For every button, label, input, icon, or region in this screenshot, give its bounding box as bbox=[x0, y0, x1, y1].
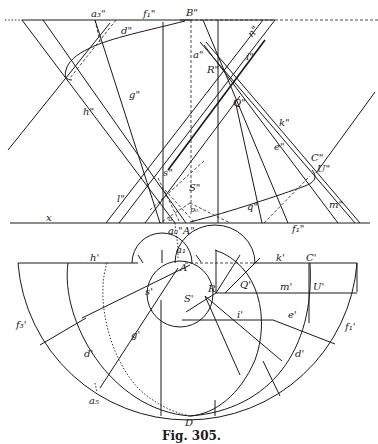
label-U-plan: U' bbox=[313, 281, 324, 292]
label-R-plan: R bbox=[207, 283, 216, 294]
label-a5: a₅ bbox=[89, 395, 99, 406]
label-f1-bottom: f₁" bbox=[291, 223, 304, 234]
label-i: i" bbox=[246, 51, 254, 62]
label-h: h" bbox=[83, 106, 94, 117]
label-e-plan: e' bbox=[288, 309, 297, 320]
descriptive-geometry-figure: a₃" f₁" B" d" n" a" i" R" g" h" Q" k" e"… bbox=[0, 0, 378, 444]
label-m-plan: m' bbox=[280, 281, 292, 292]
label-d-right: d' bbox=[295, 348, 304, 359]
label-R: R" bbox=[206, 64, 219, 75]
label-i-plan: i' bbox=[237, 309, 243, 320]
elevation-labels: a₃" f₁" B" d" n" a" i" R" g" h" Q" k" e"… bbox=[46, 7, 343, 236]
label-s: s" bbox=[163, 167, 173, 178]
figure-caption: Fig. 305. bbox=[162, 429, 221, 443]
label-A-plan: A bbox=[179, 262, 187, 273]
label-D: D bbox=[184, 417, 193, 428]
label-d: d" bbox=[121, 25, 132, 36]
label-C: C" bbox=[311, 152, 323, 163]
label-C-plan: C' bbox=[306, 252, 316, 263]
label-S-plan: S' bbox=[184, 293, 194, 304]
label-f1-plan: f₁' bbox=[344, 321, 355, 332]
label-l: l" bbox=[117, 193, 125, 204]
label-a: a" bbox=[193, 49, 204, 60]
label-a3: a₃" bbox=[91, 8, 106, 19]
label-U: U" bbox=[317, 163, 330, 174]
label-p: p₀ bbox=[190, 205, 199, 214]
label-q: q" bbox=[247, 201, 258, 212]
plan-labels: a₁ A h' k' C' s' S' R Q' m' U' i' e' f₃'… bbox=[15, 244, 355, 428]
label-S: S" bbox=[189, 182, 200, 193]
label-h-plan: h' bbox=[90, 252, 99, 263]
label-s-plan: s' bbox=[145, 286, 153, 297]
label-g-plan: g' bbox=[131, 329, 140, 340]
label-a1: a₁ bbox=[176, 244, 186, 255]
label-f3-plan: f₃' bbox=[15, 319, 26, 330]
label-Q: Q" bbox=[233, 97, 246, 108]
label-k: k" bbox=[279, 117, 290, 128]
label-Q-plan: Q' bbox=[240, 279, 251, 290]
label-e: e" bbox=[274, 141, 285, 152]
label-m: m" bbox=[329, 199, 343, 210]
label-d-left: d' bbox=[84, 348, 93, 359]
label-u: u bbox=[168, 215, 173, 223]
label-B: B" bbox=[185, 7, 198, 18]
label-g: g" bbox=[129, 89, 140, 100]
label-f1-top: f₁" bbox=[142, 8, 155, 19]
label-k-plan: k' bbox=[276, 252, 285, 263]
label-x: x bbox=[46, 212, 52, 223]
